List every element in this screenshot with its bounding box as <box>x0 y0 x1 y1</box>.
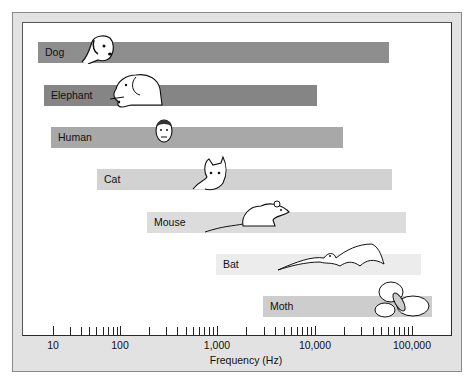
dog-icon <box>78 34 116 68</box>
minor-tick <box>408 327 409 335</box>
major-tick <box>120 326 121 335</box>
cat-icon <box>189 155 227 195</box>
minor-tick <box>361 327 362 335</box>
elephant-icon <box>106 69 164 113</box>
human-face-icon <box>153 115 175 151</box>
minor-tick <box>302 327 303 335</box>
tick-label: 100 <box>111 339 129 351</box>
tick-label: 100,000 <box>393 339 431 351</box>
tick-label: 10,000 <box>299 339 331 351</box>
bar-label: Human <box>58 131 92 143</box>
bat-icon <box>276 240 386 276</box>
minor-tick <box>311 327 312 335</box>
major-tick <box>315 326 316 335</box>
minor-tick <box>70 327 71 335</box>
minor-tick <box>264 327 265 335</box>
minor-tick <box>373 327 374 335</box>
minor-tick <box>404 327 405 335</box>
minor-tick <box>284 327 285 335</box>
bar-label: Elephant <box>51 89 92 101</box>
bar-label: Cat <box>104 173 120 185</box>
bar-moth: Moth <box>263 296 432 317</box>
major-tick <box>412 326 413 335</box>
minor-tick <box>344 327 345 335</box>
minor-tick <box>209 327 210 335</box>
bar-cat: Cat <box>97 169 392 190</box>
tick-label: 1,000 <box>204 339 230 351</box>
tick-label: 10 <box>47 339 59 351</box>
bar-label: Bat <box>223 258 239 270</box>
major-tick <box>217 326 218 335</box>
minor-tick <box>166 327 167 335</box>
minor-tick <box>213 327 214 335</box>
mouse-icon <box>203 198 295 238</box>
minor-tick <box>199 327 200 335</box>
minor-tick <box>89 327 90 335</box>
minor-tick <box>204 327 205 335</box>
minor-tick <box>81 327 82 335</box>
minor-tick <box>394 327 395 335</box>
minor-tick <box>388 327 389 335</box>
minor-tick <box>186 327 187 335</box>
minor-tick <box>193 327 194 335</box>
bar-bat: Bat <box>216 254 421 275</box>
moth-icon <box>371 280 431 324</box>
bar-label: Mouse <box>154 216 186 228</box>
minor-tick <box>96 327 97 335</box>
minor-tick <box>381 327 382 335</box>
minor-tick <box>113 327 114 335</box>
bar-human: Human <box>51 127 343 148</box>
minor-tick <box>297 327 298 335</box>
minor-tick <box>103 327 104 335</box>
minor-tick <box>291 327 292 335</box>
bar-mouse: Mouse <box>147 212 406 233</box>
minor-tick <box>246 327 247 335</box>
bar-elephant: Elephant <box>44 85 317 106</box>
minor-tick <box>108 327 109 335</box>
minor-tick <box>177 327 178 335</box>
major-tick <box>53 326 54 335</box>
minor-tick <box>275 327 276 335</box>
minor-tick <box>399 327 400 335</box>
minor-tick <box>149 327 150 335</box>
bar-dog: Dog <box>38 42 389 63</box>
minor-tick <box>307 327 308 335</box>
x-axis-label: Frequency (Hz) <box>210 354 282 366</box>
minor-tick <box>117 327 118 335</box>
bar-label: Moth <box>270 300 293 312</box>
bar-label: Dog <box>45 46 64 58</box>
